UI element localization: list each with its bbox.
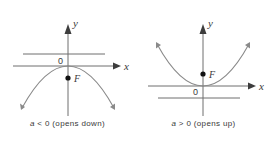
y-axis-arrowhead-icon	[65, 24, 72, 34]
caption-opens-up: a > 0 (opens up)	[136, 119, 271, 128]
x-axis-arrowhead-icon	[113, 63, 121, 70]
focus-point-dot	[200, 71, 205, 76]
parabola-figure: y x 0 F a < 0 (opens down)	[0, 0, 271, 145]
plot-area-opens-up: y x 0 F	[136, 4, 271, 116]
caption-text: < 0 (opens down)	[35, 119, 105, 128]
plot-area-opens-down: y x 0 F	[0, 4, 135, 116]
caption-opens-down: a < 0 (opens down)	[0, 119, 135, 128]
axis-label-x: x	[258, 80, 264, 92]
x-axis-arrowhead-icon	[248, 83, 256, 90]
y-axis-arrowhead-icon	[200, 24, 207, 34]
panel-parabola-opens-down: y x 0 F a < 0 (opens down)	[0, 0, 135, 145]
caption-text: > 0 (opens up)	[176, 119, 235, 128]
origin-label: 0	[193, 87, 198, 97]
focus-label: F	[73, 73, 81, 84]
axis-label-x: x	[123, 60, 129, 72]
focus-label: F	[208, 69, 216, 80]
origin-label: 0	[58, 56, 63, 66]
focus-point-dot	[65, 75, 70, 80]
panel-parabola-opens-up: y x 0 F a > 0 (opens up)	[136, 0, 271, 145]
axis-label-y: y	[72, 17, 78, 29]
axis-label-y: y	[207, 17, 213, 29]
